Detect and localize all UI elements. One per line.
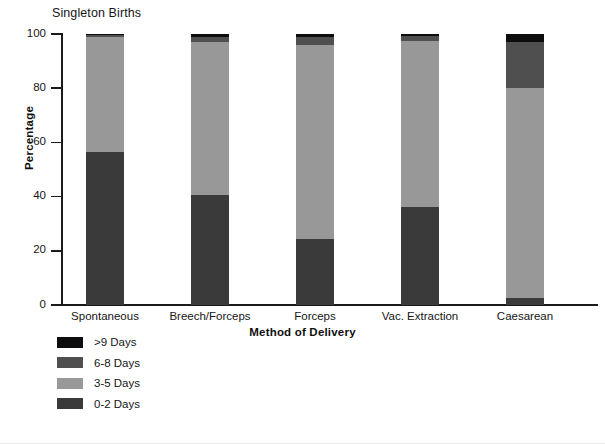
legend-item: 0-2 Days [57,394,140,415]
bar-segment [506,298,544,305]
y-axis-tick [51,33,62,35]
y-axis-tick [51,304,62,306]
y-axis-tick-label: 100 [0,27,46,39]
bar-segment [401,207,439,305]
legend-label: 3-5 Days [94,377,140,389]
y-axis-tick-label: 0 [0,298,46,310]
bar-segment [296,239,334,305]
y-axis-tick-label: 60 [0,135,46,147]
bar-segment [506,34,544,42]
legend-item: 3-5 Days [57,373,140,394]
y-axis-tick [51,87,62,89]
stacked-bar [191,34,229,305]
bar-segment [191,195,229,305]
bar-segment [296,45,334,239]
stacked-bar [506,34,544,305]
legend-label: >9 Days [94,336,137,348]
legend-item: >9 Days [57,332,140,353]
y-axis-tick-label: 40 [0,189,46,201]
x-axis-category-label: Caesarean [450,310,600,322]
legend-swatch-icon [57,378,83,389]
legend-swatch-icon [57,337,83,348]
bar-segment [296,37,334,45]
y-axis-tick-label: 20 [0,243,46,255]
bar-segment [401,41,439,208]
y-axis-tick [51,142,62,144]
plot-area [62,34,572,305]
bar-segment [506,42,544,88]
chart-legend: >9 Days6-8 Days3-5 Days0-2 Days [57,332,140,414]
stacked-bar [401,34,439,305]
y-axis-tick [51,250,62,252]
y-axis-tick [51,196,62,198]
bar-segment [506,88,544,298]
chart-title: Singleton Births [52,6,141,20]
bar-segment [86,37,124,152]
bar-segment [86,152,124,305]
legend-label: 0-2 Days [94,398,140,410]
legend-label: 6-8 Days [94,357,140,369]
legend-item: 6-8 Days [57,353,140,374]
y-axis-tick-label: 80 [0,81,46,93]
bar-segment [191,42,229,195]
legend-swatch-icon [57,398,83,409]
legend-swatch-icon [57,357,83,368]
chart-figure: Singleton Births Percentage 020406080100… [0,0,605,444]
stacked-bar [296,34,334,305]
stacked-bar [86,34,124,305]
